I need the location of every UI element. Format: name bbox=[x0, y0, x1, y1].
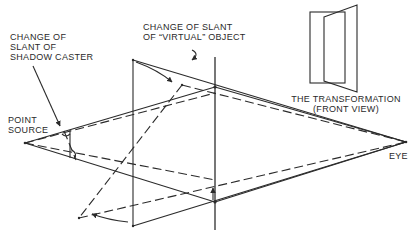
label-transformation: THE TRANSFORMATION (FRONT VIEW) bbox=[276, 94, 416, 114]
rotation-arrow-bottom bbox=[92, 214, 128, 222]
large-plane-solid bbox=[133, 60, 406, 226]
front-view-figure bbox=[310, 5, 357, 92]
virtual-object-leader bbox=[192, 50, 196, 60]
label-eye: EYE bbox=[389, 151, 408, 161]
rotation-arrow-top bbox=[136, 62, 172, 82]
label-virtual-object: CHANGE OF SLANT OF “VIRTUAL” OBJECT bbox=[143, 22, 246, 42]
label-shadow-caster: CHANGE OF SLANT OF SHADOW CASTER bbox=[10, 32, 93, 62]
diagram-canvas: CHANGE OF SLANT OF SHADOW CASTER CHANGE … bbox=[0, 0, 416, 236]
label-point-source: POINT SOURCE bbox=[8, 115, 48, 135]
